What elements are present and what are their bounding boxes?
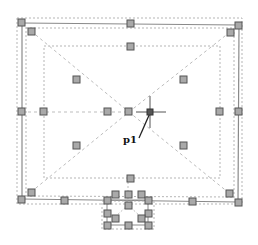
- grip: [145, 210, 152, 217]
- grip: [145, 197, 152, 204]
- grips[interactable]: [18, 19, 242, 229]
- grip: [28, 28, 35, 35]
- grip: [125, 191, 132, 198]
- grip: [112, 191, 119, 198]
- grip: [180, 142, 187, 149]
- grip: [18, 196, 25, 203]
- grip: [235, 199, 242, 206]
- grip: [127, 175, 134, 182]
- grip: [61, 197, 68, 204]
- grip: [127, 43, 134, 50]
- grip: [138, 191, 145, 198]
- grip: [73, 76, 80, 83]
- grip: [18, 108, 25, 115]
- grip: [227, 29, 234, 36]
- grip: [235, 108, 242, 115]
- grip: [127, 20, 134, 27]
- grip: [18, 19, 25, 26]
- grip: [216, 108, 223, 115]
- grip: [28, 189, 35, 196]
- grip: [40, 108, 47, 115]
- grip: [104, 222, 111, 229]
- grip: [73, 142, 80, 149]
- cad-drawing: [0, 0, 258, 245]
- grip: [189, 198, 196, 205]
- grip: [235, 22, 242, 29]
- grip: [180, 76, 187, 83]
- grip-p1: [147, 109, 153, 115]
- grip: [145, 222, 152, 229]
- grip: [226, 190, 233, 197]
- grip: [112, 215, 119, 222]
- grip: [104, 108, 111, 115]
- grip: [125, 108, 132, 115]
- p1-label: p1: [123, 134, 137, 145]
- grip: [104, 210, 111, 217]
- grip: [125, 222, 132, 229]
- grip: [104, 197, 111, 204]
- p1-leader-line: [139, 113, 150, 138]
- grip: [138, 215, 145, 222]
- grip: [125, 202, 132, 209]
